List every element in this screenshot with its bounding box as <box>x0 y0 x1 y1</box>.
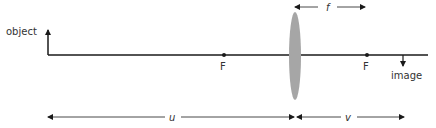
v-label: v <box>345 112 352 123</box>
focal-point-right <box>365 53 369 57</box>
focal-point-left <box>222 53 226 57</box>
focal-label-right: F <box>363 61 369 72</box>
f-label: f <box>326 2 331 13</box>
u-label: u <box>169 112 175 123</box>
convex-lens <box>289 12 301 100</box>
thin-lens-diagram: object F F image f u v <box>0 0 436 128</box>
image-label: image <box>391 70 422 81</box>
focal-label-left: F <box>220 61 226 72</box>
object-label: object <box>6 26 37 37</box>
